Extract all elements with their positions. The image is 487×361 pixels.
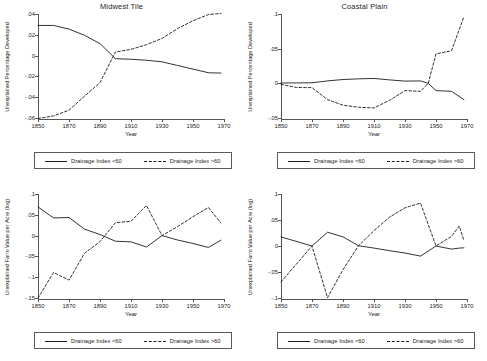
y-tick-mark — [278, 246, 281, 247]
x-tick-mark — [224, 299, 225, 302]
y-tick-mark — [35, 35, 38, 36]
x-tick-label: 1910 — [368, 303, 381, 309]
x-axis-label: Year — [281, 131, 467, 137]
x-tick-mark — [69, 299, 70, 302]
series-line-dashed — [38, 13, 221, 118]
x-tick-label: 1950 — [187, 123, 200, 129]
y-tick-mark — [35, 277, 38, 278]
y-tick-mark — [278, 272, 281, 273]
y-tick-label: .05 — [243, 46, 278, 52]
legend-label-dashed: Drainage Index >60 — [170, 338, 221, 344]
y-axis-label: Unexplained Farm Value per Acre (log) — [0, 194, 14, 299]
y-tick-label: .02 — [0, 32, 35, 38]
x-tick-mark — [405, 119, 406, 122]
x-tick-label: 1910 — [368, 123, 381, 129]
x-tick-label: 1850 — [275, 303, 288, 309]
x-tick-mark — [162, 119, 163, 122]
legend-key-solid-line-icon — [45, 338, 67, 344]
x-tick-label: 1850 — [32, 303, 45, 309]
x-tick-label: 1870 — [63, 123, 76, 129]
figure-panel-grid: Midwest Tile Unexplained Percentage Deve… — [0, 0, 487, 361]
x-tick-label: 1870 — [306, 303, 319, 309]
legend-label-dashed: Drainage Index >60 — [413, 338, 464, 344]
x-tick-mark — [312, 299, 313, 302]
x-tick-label: 1950 — [430, 303, 443, 309]
y-tick-label: -.1 — [0, 274, 35, 280]
series-line-solid — [281, 232, 464, 256]
x-tick-mark — [100, 119, 101, 122]
legend-item-solid: Drainage Index <60 — [288, 158, 365, 164]
x-tick-label: 1950 — [430, 123, 443, 129]
x-tick-label: 1890 — [94, 123, 107, 129]
panel-midwest-tile-farmvalue: Unexplained Farm Value per Acre (log) 18… — [0, 180, 243, 326]
series-group — [38, 13, 221, 118]
y-tick-mark — [278, 220, 281, 221]
legend-key-solid-line-icon — [288, 338, 310, 344]
series-line-solid — [281, 78, 464, 99]
legend-item-solid: Drainage Index <60 — [288, 338, 365, 344]
x-tick-label: 1970 — [218, 123, 231, 129]
plot-svg — [38, 194, 224, 298]
x-tick-label: 1870 — [63, 303, 76, 309]
y-tick-mark — [35, 14, 38, 15]
x-tick-mark — [374, 119, 375, 122]
x-tick-label: 1930 — [399, 303, 412, 309]
x-tick-label: 1890 — [337, 303, 350, 309]
x-tick-mark — [69, 119, 70, 122]
x-tick-mark — [281, 299, 282, 302]
plot-svg — [281, 14, 467, 118]
legend-item-dashed: Drainage Index >60 — [144, 338, 221, 344]
y-tick-mark — [35, 56, 38, 57]
panel-row-top: Midwest Tile Unexplained Percentage Deve… — [0, 0, 487, 180]
legend-item-solid: Drainage Index <60 — [45, 158, 122, 164]
x-tick-mark — [281, 119, 282, 122]
x-tick-mark — [312, 119, 313, 122]
x-tick-mark — [405, 299, 406, 302]
legend-key-dashed-line-icon — [144, 158, 166, 164]
legend-item-dashed: Drainage Index >60 — [387, 158, 464, 164]
y-tick-mark — [35, 118, 38, 119]
series-line-dashed — [38, 205, 221, 298]
plot-area — [38, 14, 224, 118]
y-axis-label: Unexplained Percentage Developed — [243, 14, 257, 119]
y-tick-label: -.05 — [0, 253, 35, 259]
y-tick-mark — [35, 97, 38, 98]
legend-key-solid-line-icon — [288, 158, 310, 164]
legend-label-solid: Drainage Index <60 — [314, 158, 365, 164]
y-tick-label: 0 — [243, 80, 278, 86]
y-tick-label: -.05 — [243, 269, 278, 275]
panel-row-bottom: Unexplained Farm Value per Acre (log) 18… — [0, 180, 487, 360]
x-axis-label: Year — [281, 311, 467, 317]
x-tick-label: 1930 — [399, 123, 412, 129]
x-tick-label: 1910 — [125, 303, 138, 309]
x-tick-mark — [38, 299, 39, 302]
panel-title: Midwest Tile — [0, 2, 243, 11]
x-tick-label: 1910 — [125, 123, 138, 129]
plot-area — [281, 14, 467, 118]
x-tick-label: 1890 — [94, 303, 107, 309]
y-tick-mark — [35, 236, 38, 237]
panel-coastal-plain-farmvalue: Unexplained Farm Value per Acre (log) 18… — [243, 180, 486, 326]
y-tick-label: .05 — [0, 212, 35, 218]
x-axis-label: Year — [38, 131, 224, 137]
x-tick-label: 1930 — [156, 303, 169, 309]
y-tick-label: .1 — [0, 191, 35, 197]
series-line-dashed — [281, 17, 464, 108]
panel-coastal-plain-percentage: Coastal Plain Unexplained Percentage Dev… — [243, 0, 486, 146]
y-axis-label: Unexplained Percentage Developed — [0, 14, 14, 119]
series-line-dashed — [281, 203, 464, 298]
y-tick-mark — [278, 14, 281, 15]
plot-svg — [38, 14, 224, 118]
x-tick-mark — [162, 299, 163, 302]
plot-area — [281, 194, 467, 298]
x-tick-label: 1970 — [461, 303, 474, 309]
legend-key-dashed-line-icon — [144, 338, 166, 344]
x-tick-mark — [38, 119, 39, 122]
x-tick-mark — [343, 119, 344, 122]
legend-key-solid-line-icon — [45, 158, 67, 164]
legend-label-dashed: Drainage Index >60 — [170, 158, 221, 164]
x-tick-label: 1870 — [306, 123, 319, 129]
x-tick-mark — [436, 119, 437, 122]
y-tick-label: .04 — [0, 11, 35, 17]
plot-area — [38, 194, 224, 298]
